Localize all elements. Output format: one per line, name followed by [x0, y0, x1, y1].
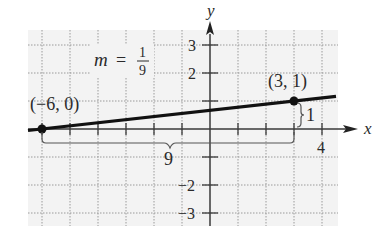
point-a-label: (−6, 0): [30, 94, 79, 115]
slope-m: m: [94, 49, 108, 70]
point-b-marker: [290, 97, 299, 106]
slope-denominator: 9: [139, 63, 146, 78]
tick-label-x4: 4: [317, 139, 325, 156]
x-axis-label: x: [363, 119, 372, 138]
tick-label-yn3: −3: [178, 205, 195, 222]
y-axis-label: y: [205, 1, 215, 20]
tick-label-y2: 2: [188, 65, 196, 82]
run-label: 9: [164, 149, 173, 169]
chart: y x 3 2 −2 −3 4 (−6, 0) (3, 1) 9 1 m = 1…: [0, 0, 382, 236]
plot-area: [28, 30, 338, 226]
slope-annotation: m = 1 9: [90, 44, 154, 78]
tick-label-yn2: −2: [178, 177, 195, 194]
slope-numerator: 1: [139, 45, 146, 60]
rise-label: 1: [306, 105, 315, 125]
point-b-label: (3, 1): [268, 71, 307, 92]
slope-equals: =: [116, 50, 126, 70]
tick-label-y3: 3: [188, 37, 196, 54]
